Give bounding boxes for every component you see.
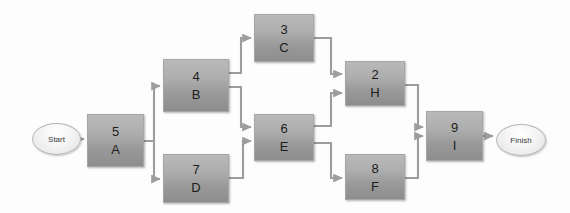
edge-A-to-B <box>144 86 160 141</box>
node-I-duration: 9 <box>451 120 458 135</box>
node-E-code: E <box>280 139 289 154</box>
node-H-code: H <box>370 85 379 100</box>
node-D[interactable]: 7 D <box>163 154 229 203</box>
node-H-duration: 2 <box>371 67 378 82</box>
edge-B-to-E <box>229 87 251 127</box>
node-F-code: F <box>371 179 379 194</box>
node-C-duration: 3 <box>280 22 287 37</box>
node-E[interactable]: 6 E <box>254 114 314 161</box>
node-B[interactable]: 4 B <box>163 59 229 112</box>
edge-E-to-H <box>314 93 342 126</box>
terminator-finish-label: Finish <box>510 136 531 145</box>
node-F-duration: 8 <box>371 161 378 176</box>
network-diagram-canvas: Start 5 A 4 B 3 C 7 D 6 E 2 H 8 F 9 I Fi… <box>0 0 570 213</box>
node-B-code: B <box>192 87 201 102</box>
edge-E-to-F <box>314 143 342 178</box>
terminator-start[interactable]: Start <box>32 123 81 155</box>
edge-C-to-H <box>314 38 342 74</box>
edge-D-to-E <box>229 141 251 178</box>
node-F[interactable]: 8 F <box>345 154 405 200</box>
edge-F-to-I <box>405 136 423 178</box>
edge-A-to-D <box>144 141 160 179</box>
node-A-duration: 5 <box>112 124 119 139</box>
terminator-start-label: Start <box>48 135 65 144</box>
edge-H-to-I <box>405 85 423 127</box>
node-A[interactable]: 5 A <box>87 114 144 167</box>
node-I-code: I <box>453 138 457 153</box>
node-D-duration: 7 <box>192 162 199 177</box>
node-E-duration: 6 <box>280 121 287 136</box>
node-C[interactable]: 3 C <box>254 14 314 62</box>
node-C-code: C <box>279 40 288 55</box>
terminator-finish[interactable]: Finish <box>496 124 546 156</box>
edge-B-to-C <box>229 38 251 73</box>
node-I[interactable]: 9 I <box>426 111 483 161</box>
node-B-duration: 4 <box>192 69 199 84</box>
node-A-code: A <box>111 142 120 157</box>
node-H[interactable]: 2 H <box>345 61 405 106</box>
node-D-code: D <box>191 180 200 195</box>
